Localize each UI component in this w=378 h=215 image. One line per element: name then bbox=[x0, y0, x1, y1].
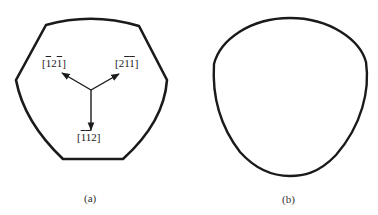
figure-canvas bbox=[0, 0, 378, 215]
panel-b-shape bbox=[214, 18, 367, 176]
arrow-m1-2-m1 bbox=[62, 73, 91, 90]
caption-b: (b) bbox=[282, 193, 295, 205]
direction-arrows bbox=[62, 73, 119, 130]
caption-a: (a) bbox=[84, 192, 96, 204]
direction-label-m1-2-m1: [121] bbox=[42, 57, 66, 69]
direction-label-2-m1-m1: [211] bbox=[115, 57, 138, 69]
direction-label-m1-m1-2: [112] bbox=[77, 131, 100, 143]
arrow-2-m1-m1 bbox=[91, 74, 119, 90]
